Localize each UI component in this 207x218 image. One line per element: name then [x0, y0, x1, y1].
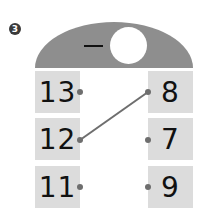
- left-connect-dot[interactable]: [77, 89, 83, 95]
- left-connect-dot[interactable]: [77, 184, 83, 190]
- right-connect-dot[interactable]: [145, 137, 151, 143]
- right-connect-dot[interactable]: [145, 89, 151, 95]
- right-connect-dot[interactable]: [145, 184, 151, 190]
- connection-lines: [0, 0, 207, 218]
- connection-line: [80, 92, 148, 140]
- left-connect-dot[interactable]: [77, 137, 83, 143]
